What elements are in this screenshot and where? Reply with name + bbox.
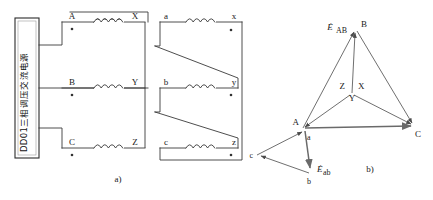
terminal-label-C: C <box>69 137 75 147</box>
secondary-phase-c: c z <box>160 137 238 156</box>
polarity-dot-A <box>71 28 74 31</box>
phasor-label-A: A <box>293 117 300 127</box>
terminal-label-Z: Z <box>132 137 138 147</box>
zigzag-a-stub <box>155 22 160 46</box>
phasor-A-to-C <box>305 126 411 128</box>
terminal-label-A: A <box>69 11 76 21</box>
phasor-O-to-B <box>352 33 355 93</box>
terminal-label-c: c <box>164 137 168 147</box>
terminal-label-b: b <box>164 77 169 87</box>
phasor-B-to-C <box>357 31 412 123</box>
caption-b: b) <box>366 164 374 174</box>
polarity-dot-B <box>71 94 74 97</box>
phasor-A-to-B <box>303 32 354 128</box>
zigzag-b-stub <box>155 88 160 112</box>
terminal-label-z: z <box>232 137 236 147</box>
phasor-label-Y: Y <box>349 93 356 103</box>
phasor-O-to-C <box>354 95 411 124</box>
terminal-label-Y: Y <box>132 77 139 87</box>
phasor-label-c: c <box>249 151 253 160</box>
caption-a: a) <box>115 174 122 184</box>
zigzag-link-c-to-x <box>160 22 242 160</box>
secondary-phase-b: b y <box>160 77 238 96</box>
diagram-canvas: DD01三相调压交流电源 A X B Y <box>0 0 433 200</box>
phasor-label-X: X <box>358 81 365 91</box>
terminal-label-y: y <box>232 77 237 87</box>
phasor-label-E-ab-group: Ė ab <box>316 164 331 177</box>
terminal-label-x: x <box>232 11 237 21</box>
phasor-label-B: B <box>361 19 367 29</box>
lead-wire-c <box>39 128 62 148</box>
source-box-group: DD01三相调压交流电源 <box>15 18 39 158</box>
phasor-c-to-a <box>257 132 302 155</box>
terminal-label-a: a <box>164 11 168 21</box>
phasor-label-C: C <box>415 129 421 139</box>
primary-phase-c: C Z <box>62 137 145 156</box>
secondary-zigzag-links <box>155 22 242 160</box>
primary-phase-a: A X <box>62 11 145 30</box>
source-box-label: DD01三相调压交流电源 <box>19 52 29 152</box>
phasor-label-a: a <box>307 133 311 142</box>
terminal-label-X: X <box>132 11 139 21</box>
phasor-label-E-AB: Ė <box>326 22 333 32</box>
polarity-dot-C <box>71 154 74 157</box>
phasor-diagram-group: A B C Z X Y a b c Ė AB Ė ab <box>249 19 421 186</box>
polarity-dot-y <box>230 94 233 97</box>
phasor-label-Z: Z <box>340 81 346 91</box>
phasor-label-E-AB-sub: AB <box>336 26 347 35</box>
secondary-phase-a: a x <box>160 11 242 31</box>
phasor-label-E-AB-group: Ė AB <box>326 22 347 35</box>
figure-root: DD01三相调压交流电源 A X B Y <box>0 0 433 200</box>
phasor-label-b: b <box>307 177 311 186</box>
terminal-label-B: B <box>69 77 75 87</box>
primary-phase-b: B Y <box>62 77 145 96</box>
phasor-b-to-c <box>261 156 309 173</box>
phasor-label-E-ab: Ė <box>316 164 323 174</box>
phasor-label-E-ab-sub: ab <box>323 168 331 177</box>
lead-wire-a <box>39 22 62 45</box>
polarity-dot-z <box>230 154 233 157</box>
polarity-dot-x <box>230 29 233 32</box>
